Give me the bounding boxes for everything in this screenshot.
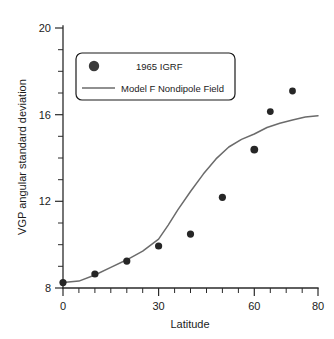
data-point: [123, 258, 130, 265]
data-point: [219, 194, 226, 201]
x-axis-title: Latitude: [170, 318, 209, 330]
chart-figure: 8 12 16 20 0 30 60 80 Latitude VGP angul…: [0, 0, 334, 339]
chart-legend: 1965 IGRF Model F Nondipole Field: [76, 53, 235, 100]
legend-marker-circle-icon: [89, 61, 99, 71]
legend-label-1965-igrf: 1965 IGRF: [136, 61, 183, 72]
data-point: [187, 231, 194, 238]
data-point: [250, 146, 258, 154]
data-point: [155, 242, 162, 249]
x-tick-label-30: 30: [152, 300, 164, 312]
legend-label-model-f: Model F Nondipole Field: [121, 83, 224, 94]
y-tick-label-12: 12: [39, 195, 51, 207]
y-tick-label-8: 8: [45, 282, 51, 294]
x-tick-label-60: 60: [248, 300, 260, 312]
y-tick-label-16: 16: [39, 109, 51, 121]
x-tick-label-80: 80: [312, 300, 324, 312]
data-point: [267, 108, 274, 115]
y-axis-title: VGP angular standard deviation: [16, 79, 28, 235]
data-point: [91, 270, 98, 277]
scatter-plot-svg: 8 12 16 20 0 30 60 80 Latitude VGP angul…: [0, 0, 334, 339]
x-tick-label-0: 0: [60, 300, 66, 312]
y-tick-label-20: 20: [39, 22, 51, 34]
data-point: [59, 279, 66, 286]
data-point: [289, 88, 296, 95]
